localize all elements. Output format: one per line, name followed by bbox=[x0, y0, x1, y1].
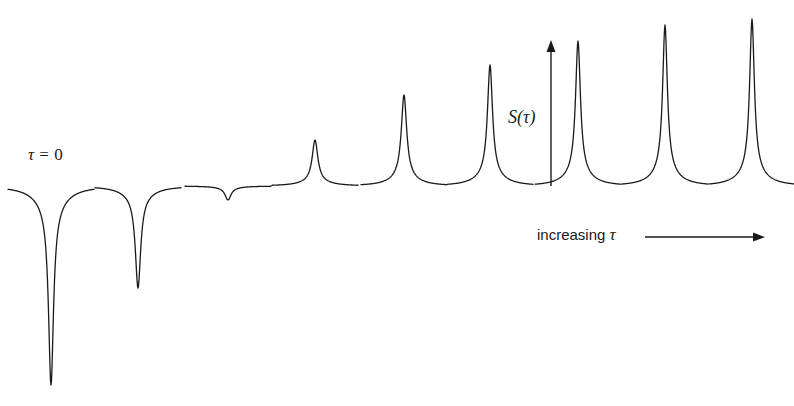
peak-series-group bbox=[8, 19, 794, 385]
spectral-peak bbox=[272, 140, 358, 185]
tau-symbol: τ bbox=[28, 145, 35, 164]
spectral-peak bbox=[185, 186, 271, 200]
tau-zero-value: = 0 bbox=[35, 145, 64, 164]
inversion-recovery-figure: τ = 0 S(τ) increasing τ bbox=[0, 0, 794, 406]
spectra-plot bbox=[0, 0, 794, 406]
signal-axis-label: S(τ) bbox=[508, 108, 535, 126]
spectral-peak bbox=[535, 41, 621, 184]
increasing-tau-text: increasing bbox=[537, 226, 610, 243]
spectral-peak bbox=[622, 25, 708, 184]
increasing-tau-arrowhead bbox=[753, 233, 765, 242]
spectral-peak bbox=[709, 19, 794, 184]
increasing-tau-label: increasing τ bbox=[537, 226, 616, 243]
tau-zero-label: τ = 0 bbox=[28, 146, 63, 163]
spectral-peak bbox=[8, 189, 94, 385]
signal-axis-arrowhead bbox=[547, 40, 556, 52]
tau-symbol-axis: τ bbox=[610, 225, 616, 244]
spectral-peak bbox=[361, 95, 447, 185]
spectral-peak bbox=[95, 188, 181, 288]
